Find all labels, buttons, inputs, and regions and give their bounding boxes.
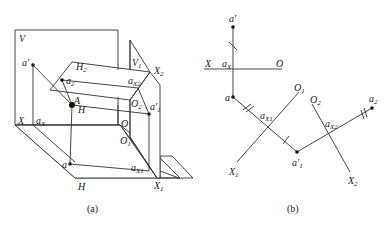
point-a2 xyxy=(60,78,64,82)
label-a-prime: a′ xyxy=(229,13,237,24)
label-O: O xyxy=(121,118,128,129)
label-H-plane: H xyxy=(77,181,86,192)
label-V: V xyxy=(19,33,27,44)
panel-a: V H a′ H2 V1 X2 a2 aX2 A O2 a′1 X aX O O… xyxy=(15,30,193,215)
point-a2 xyxy=(370,106,374,110)
label-X2: X2 xyxy=(347,175,358,188)
label-A: A xyxy=(73,95,81,106)
label-aX1: aX1 xyxy=(260,110,273,123)
point-a-prime xyxy=(31,63,35,67)
label-a2: a2 xyxy=(369,93,378,106)
label-a1-prime: a′1 xyxy=(292,157,303,170)
label-X1: X1 xyxy=(228,166,239,179)
label-a-prime: a′ xyxy=(22,57,30,68)
label-X1: X1 xyxy=(153,180,164,193)
label-X: X xyxy=(17,115,25,126)
point-a1-prime xyxy=(295,150,299,154)
point-a xyxy=(68,162,72,166)
label-O1: O1 xyxy=(294,82,305,95)
point-a xyxy=(231,95,235,99)
label-O2: O2 xyxy=(310,94,321,107)
label-aX2: aX2 xyxy=(325,118,338,131)
label-X: X xyxy=(204,58,212,69)
caption-b: (b) xyxy=(287,203,299,215)
label-X2: X2 xyxy=(153,65,164,78)
x1-o1-axis xyxy=(237,92,299,162)
x2-o2-axis xyxy=(312,104,350,172)
label-a: a xyxy=(62,159,67,170)
projection-diagram: V H a′ H2 V1 X2 a2 aX2 A O2 a′1 X aX O O… xyxy=(0,0,388,229)
point-a1-prime xyxy=(147,112,151,116)
label-a: a xyxy=(225,92,230,103)
panel-b: a′ X aX O a O1 O2 a2 aX1 aX2 a′1 X1 X2 (… xyxy=(204,13,378,215)
label-O: O xyxy=(276,58,283,69)
caption-a: (a) xyxy=(87,203,98,215)
point-a-prime xyxy=(231,25,235,29)
